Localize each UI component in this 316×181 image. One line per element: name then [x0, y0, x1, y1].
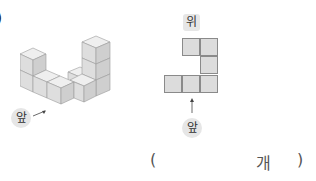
answer-blank[interactable] [172, 150, 252, 170]
front-arrow-icon [32, 108, 48, 118]
answer-unit: 개 [256, 150, 271, 174]
top-view-cell [164, 75, 182, 93]
top-view-cell [182, 38, 200, 56]
top-view-cell [182, 75, 200, 93]
top-view-cell [200, 56, 218, 74]
top-view-front-label: 앞 [182, 118, 202, 138]
top-view-cell [200, 75, 218, 93]
up-arrow-icon [188, 98, 196, 114]
problem-number-fragment: ) [0, 8, 2, 27]
answer-close-paren: ) [297, 150, 303, 169]
answer-open-paren: ( [150, 150, 156, 169]
top-view-grid [164, 38, 219, 94]
top-view-cell [200, 38, 218, 56]
front-label-badge: 앞 [11, 108, 31, 128]
top-view-label: 위 [183, 14, 200, 31]
